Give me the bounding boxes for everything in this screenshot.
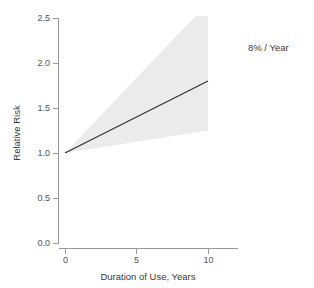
y-tick-label: 0.5 [37, 193, 50, 203]
x-tick-label: 10 [203, 255, 213, 265]
y-tick-label: 2.0 [37, 58, 50, 68]
y-axis-title: Relative Risk [11, 105, 22, 161]
x-tick-label: 0 [63, 255, 68, 265]
y-tick-label: 1.5 [37, 103, 50, 113]
y-tick-label: 1.0 [37, 148, 50, 158]
relative-risk-chart: 2.5 2.0 1.5 1.0 0.5 0.0 0 5 10 Duration … [0, 0, 314, 288]
rate-annotation: 8% / Year [248, 42, 289, 53]
y-tick-label: 2.5 [37, 13, 50, 23]
x-axis-title: Duration of Use, Years [100, 271, 195, 282]
y-tick-label: 0.0 [37, 238, 50, 248]
x-tick-label: 5 [134, 255, 139, 265]
